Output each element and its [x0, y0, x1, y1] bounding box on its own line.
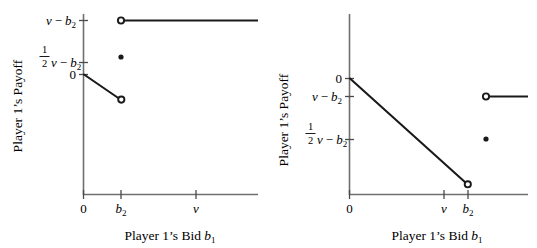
left-ylabel-half-expression: v−b2	[51, 55, 81, 72]
right-ylabel-v-minus-b2: v−b2	[312, 89, 342, 106]
right-descending-segment	[350, 79, 466, 184]
right-xlabel-v: v	[441, 201, 447, 216]
right-ylabel-half-v-minus-b2: 1 2 v−b2	[306, 121, 348, 149]
left-open-circle-low	[118, 97, 124, 103]
right-x-axis-title: Player 1’s Bid b1	[391, 228, 482, 245]
left-descending-segment	[84, 75, 119, 99]
figure-canvas: v−b2 1 2 v−b2 0 0 b2 v Player 1’s Bid b1	[0, 0, 537, 248]
right-ylabel-half-denominator: 2	[308, 135, 313, 146]
left-filled-dot-mid	[118, 54, 123, 59]
left-panel: v−b2 1 2 v−b2 0 0 b2 v Player 1’s Bid b1	[10, 13, 258, 245]
two-panel-payoff-figure: v−b2 1 2 v−b2 0 0 b2 v Player 1’s Bid b1	[0, 0, 537, 248]
right-ylabel-half-expression: v−b2	[317, 132, 347, 149]
left-ylabel-half-denominator: 2	[42, 58, 47, 69]
left-ylabel-half-numerator: 1	[42, 44, 47, 55]
left-xlabel-b2: b2	[116, 201, 127, 218]
left-ylabel-zero: 0	[70, 67, 77, 82]
left-xlabel-zero: 0	[80, 201, 87, 216]
right-open-circle-high	[483, 93, 489, 99]
left-x-axis-title: Player 1’s Bid b1	[124, 228, 215, 245]
left-ylabel-v-minus-b2: v−b2	[46, 13, 76, 30]
left-y-axis-title: Player 1’s Payoff	[10, 59, 25, 152]
right-ylabel-half-numerator: 1	[308, 121, 313, 132]
right-panel: 0 v−b2 1 2 v−b2 0 v b2 Player 1’s Bid b1	[276, 14, 528, 245]
right-open-circle-low	[465, 181, 471, 187]
right-xlabel-b2: b2	[463, 201, 474, 218]
right-xlabel-zero: 0	[346, 201, 353, 216]
right-ylabel-zero: 0	[336, 71, 343, 86]
left-open-circle-high	[118, 17, 124, 23]
right-y-axis-title: Player 1’s Payoff	[276, 73, 291, 166]
left-xlabel-v: v	[193, 201, 199, 216]
right-filled-dot-mid	[483, 136, 488, 141]
